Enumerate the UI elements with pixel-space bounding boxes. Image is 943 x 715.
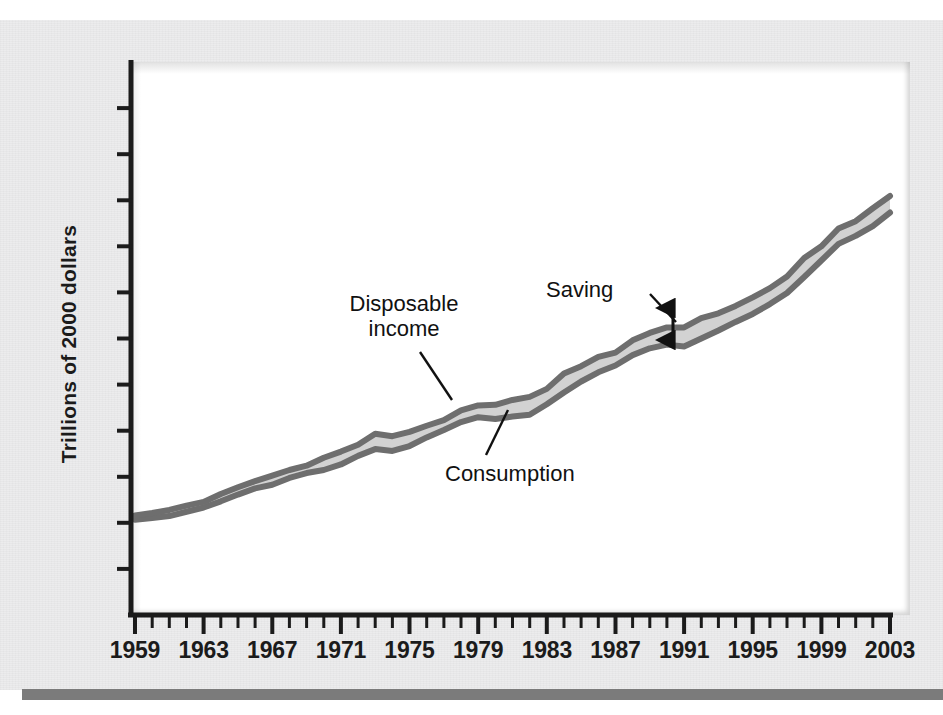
x-axis-ticks <box>135 616 890 634</box>
x-axis-tick-label: 2003 <box>850 637 930 664</box>
bottom-rule-bar <box>22 689 943 700</box>
axis-lines <box>128 60 893 617</box>
chart-canvas <box>0 0 943 715</box>
figure-page: Trillions of 2000 dollars 19591963196719… <box>0 0 943 715</box>
annotation-consumption: Consumption <box>445 462 645 487</box>
annotation-saving: Saving <box>546 278 666 303</box>
y-axis-title: Trillions of 2000 dollars <box>57 214 81 474</box>
annotation-disposable-income: Disposable income <box>329 292 479 341</box>
